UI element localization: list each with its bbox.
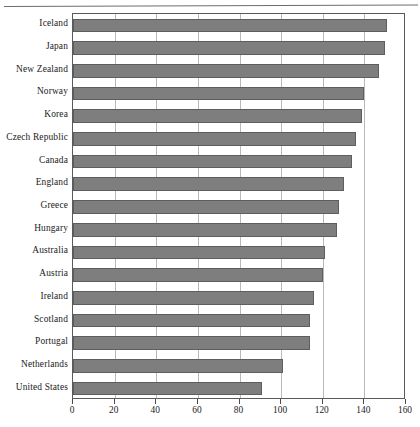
bar-iceland [73, 19, 387, 33]
bar-row [73, 64, 404, 78]
y-axis-label-czech-republic: Czech Republic [0, 133, 68, 142]
y-axis-label-austria: Austria [0, 269, 68, 278]
bar-row [73, 314, 404, 328]
y-axis-label-hungary: Hungary [0, 224, 68, 233]
y-axis-category-labels: IcelandJapanNew ZealandNorwayKoreaCzech … [0, 13, 68, 399]
bar-row [73, 336, 404, 350]
x-tick-140 [363, 399, 364, 404]
bar-greece [73, 200, 339, 214]
x-tick-0 [72, 399, 73, 404]
bar-row [73, 155, 404, 169]
bar-england [73, 177, 344, 191]
x-tick-20 [114, 399, 115, 404]
bar-row [73, 382, 404, 396]
bar-netherlands [73, 359, 283, 373]
bar-row [73, 19, 404, 33]
bar-scotland [73, 314, 310, 328]
x-tick-label-0: 0 [57, 406, 87, 415]
x-axis: 020406080100120140160 [72, 399, 405, 425]
bar-australia [73, 246, 325, 260]
bar-row [73, 41, 404, 55]
x-tick-60 [197, 399, 198, 404]
x-tick-label-160: 160 [390, 406, 420, 415]
bar-row [73, 268, 404, 282]
x-tick-label-80: 80 [224, 406, 254, 415]
y-axis-label-norway: Norway [0, 87, 68, 96]
bar-portugal [73, 336, 310, 350]
bar-korea [73, 109, 362, 123]
plot-area [72, 13, 405, 399]
bar-japan [73, 41, 385, 55]
x-tick-label-40: 40 [140, 406, 170, 415]
y-axis-label-new-zealand: New Zealand [0, 65, 68, 74]
bar-austria [73, 268, 323, 282]
x-tick-label-140: 140 [348, 406, 378, 415]
x-tick-label-120: 120 [307, 406, 337, 415]
chart-page: IcelandJapanNew ZealandNorwayKoreaCzech … [0, 0, 420, 427]
x-tick-40 [155, 399, 156, 404]
page-top-rule [4, 4, 418, 7]
y-axis-label-australia: Australia [0, 246, 68, 255]
bar-united-states [73, 382, 262, 396]
x-tick-80 [239, 399, 240, 404]
bar-row [73, 177, 404, 191]
x-tick-label-100: 100 [265, 406, 295, 415]
bar-row [73, 291, 404, 305]
y-axis-label-japan: Japan [0, 42, 68, 51]
y-axis-label-portugal: Portugal [0, 337, 68, 346]
y-axis-label-ireland: Ireland [0, 292, 68, 301]
bar-row [73, 246, 404, 260]
y-axis-label-iceland: Iceland [0, 19, 68, 28]
bar-czech-republic [73, 132, 356, 146]
bar-row [73, 132, 404, 146]
bar-row [73, 359, 404, 373]
bar-ireland [73, 291, 314, 305]
bar-row [73, 223, 404, 237]
x-tick-100 [280, 399, 281, 404]
bar-hungary [73, 223, 337, 237]
x-tick-label-60: 60 [182, 406, 212, 415]
x-tick-label-20: 20 [99, 406, 129, 415]
plot-inner [73, 14, 404, 398]
y-axis-label-netherlands: Netherlands [0, 360, 68, 369]
y-axis-label-scotland: Scotland [0, 315, 68, 324]
x-tick-160 [405, 399, 406, 404]
bar-row [73, 109, 404, 123]
bar-row [73, 200, 404, 214]
bar-canada [73, 155, 352, 169]
y-axis-label-canada: Canada [0, 156, 68, 165]
x-tick-120 [322, 399, 323, 404]
bar-row [73, 87, 404, 101]
y-axis-label-england: England [0, 178, 68, 187]
bar-new-zealand [73, 64, 379, 78]
y-axis-label-korea: Korea [0, 110, 68, 119]
y-axis-label-greece: Greece [0, 201, 68, 210]
bar-norway [73, 87, 364, 101]
y-axis-label-united-states: United States [0, 383, 68, 392]
